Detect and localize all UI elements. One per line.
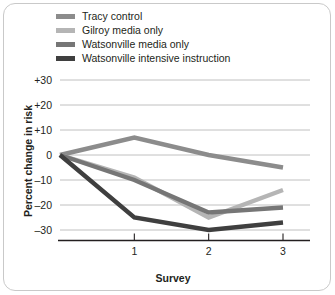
y-axis-title: Percent change in risk (22, 86, 34, 236)
x-axis-tick-label: 3 (273, 245, 293, 257)
x-axis-title: Survey (60, 272, 286, 284)
x-axis-tick-label: 2 (199, 245, 219, 257)
plot-area: +30+20+100–10–20–30 123 Percent change i… (0, 0, 335, 295)
data-series-lines (60, 138, 283, 231)
x-axis-tick-label: 1 (124, 245, 144, 257)
chart-figure: Tracy control Gilroy media only Watsonvi… (0, 0, 335, 295)
y-axis-tick-label: +30 (24, 74, 52, 86)
x-axis-ticks (134, 234, 283, 241)
